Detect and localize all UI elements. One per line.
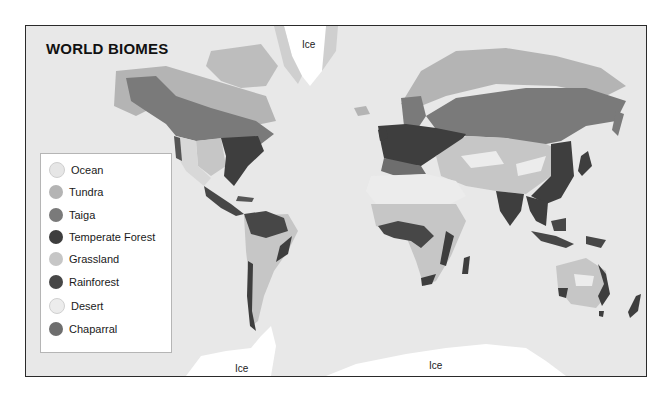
map-title: WORLD BIOMES	[46, 40, 168, 57]
legend: Ocean Tundra Taiga Temperate Forest Gras…	[40, 153, 172, 353]
indonesia	[531, 231, 574, 248]
temperate-forest-swatch-icon	[49, 230, 63, 244]
ocean-swatch-icon	[49, 162, 65, 178]
borneo	[551, 218, 566, 231]
legend-item-temperate-forest: Temperate Forest	[49, 229, 155, 245]
legend-item-tundra: Tundra	[49, 184, 103, 200]
ice-label-antarctica-east: Ice	[429, 360, 442, 371]
grassland-swatch-icon	[49, 252, 63, 266]
legend-label: Taiga	[69, 209, 95, 221]
madagascar	[462, 256, 470, 274]
india	[496, 191, 524, 226]
legend-label: Grassland	[69, 253, 119, 265]
japan	[578, 151, 592, 176]
antarctica-ice-east	[326, 344, 566, 376]
tundra-swatch-icon	[49, 185, 63, 199]
legend-item-taiga: Taiga	[49, 207, 95, 223]
legend-label: Rainforest	[69, 276, 119, 288]
rainforest-swatch-icon	[49, 275, 63, 289]
legend-item-ocean: Ocean	[49, 162, 103, 178]
legend-item-desert: Desert	[49, 298, 103, 314]
legend-item-chaparral: Chaparral	[49, 321, 117, 337]
legend-label: Desert	[71, 300, 103, 312]
new-guinea	[586, 236, 606, 248]
ice-label-antarctica-west: Ice	[235, 363, 248, 374]
iceland	[354, 106, 370, 116]
ice-label-greenland: Ice	[302, 39, 315, 50]
legend-label: Tundra	[69, 186, 103, 198]
tasmania	[599, 311, 604, 317]
new-zealand	[628, 294, 641, 318]
legend-label: Ocean	[71, 164, 103, 176]
na-temperate	[221, 136, 264, 186]
antarctica-ice-west	[186, 326, 276, 376]
caribbean	[236, 196, 254, 202]
australia-desert	[574, 274, 594, 286]
taiga-swatch-icon	[49, 208, 63, 222]
chaparral-swatch-icon	[49, 322, 63, 336]
world-biomes-map: WORLD BIOMES Ice Ice Ice Ocean Tundra Ta…	[25, 25, 647, 377]
legend-item-rainforest: Rainforest	[49, 274, 119, 290]
legend-label: Temperate Forest	[69, 231, 155, 243]
desert-swatch-icon	[49, 298, 65, 314]
legend-label: Chaparral	[69, 323, 117, 335]
legend-item-grassland: Grassland	[49, 251, 119, 267]
